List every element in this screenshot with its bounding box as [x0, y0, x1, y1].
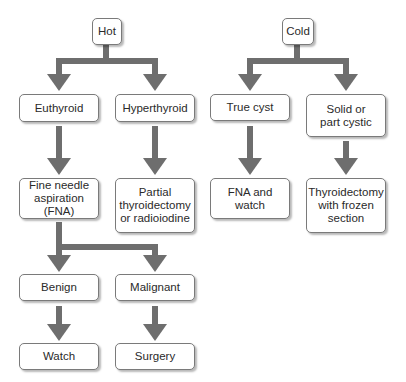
node-hyperthyroid: Hyperthyroid — [115, 94, 195, 122]
node-surgery: Surgery — [115, 343, 195, 370]
flowchart: Hot Cold Euthyroid Hyperthyroid True cys… — [0, 0, 406, 382]
arrow-head-icon — [143, 255, 167, 272]
arrow-head-icon — [143, 324, 167, 341]
node-malignant: Malignant — [115, 274, 195, 301]
arrow-head-icon — [47, 158, 71, 175]
node-solid-or-part-cystic: Solid or part cystic — [306, 94, 386, 137]
arrow-head-icon — [47, 255, 71, 272]
arrow-head-icon — [334, 74, 358, 91]
node-benign: Benign — [19, 274, 99, 301]
node-thyroidectomy-frozen-section: Thyroidectomy with frozen section — [306, 178, 386, 233]
node-true-cyst: True cyst — [210, 94, 290, 121]
arrow-head-icon — [143, 158, 167, 175]
node-hot: Hot — [92, 18, 122, 45]
node-cold: Cold — [282, 18, 314, 45]
node-fna-and-watch: FNA and watch — [210, 178, 290, 219]
node-fine-needle-aspiration: Fine needle aspiration (FNA) — [19, 178, 99, 219]
arrow-head-icon — [238, 74, 262, 91]
arrow-head-icon — [47, 324, 71, 341]
node-euthyroid: Euthyroid — [19, 94, 99, 122]
arrow-head-icon — [47, 74, 71, 91]
node-watch: Watch — [19, 343, 99, 370]
node-partial-thyroidectomy: Partial thyroidectomy or radioiodine — [115, 178, 195, 233]
arrow-head-icon — [334, 158, 358, 175]
arrow-head-icon — [238, 158, 262, 175]
arrow-head-icon — [143, 74, 167, 91]
